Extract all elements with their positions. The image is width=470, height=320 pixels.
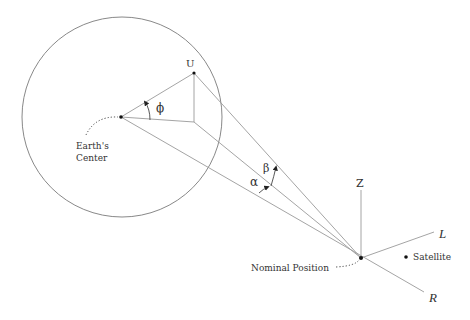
- beta-angle-arc: [271, 167, 276, 186]
- beta-label: β: [263, 162, 269, 175]
- alpha-angle-arc: [259, 187, 268, 193]
- alpha-label: α: [250, 175, 258, 189]
- satellite-label: Satellite: [413, 252, 451, 262]
- u-label: U: [186, 58, 194, 69]
- satellite-point: [404, 255, 408, 259]
- l-axis-label: L: [438, 226, 446, 241]
- foot-to-nominal-line: [194, 122, 361, 258]
- earth-center-label-line1: Earth's: [76, 141, 109, 151]
- center-to-foot-line: [121, 117, 194, 122]
- earth-center-leader: [86, 117, 118, 135]
- nominal-position-label: Nominal Position: [251, 263, 329, 273]
- phi-label: ϕ: [156, 101, 164, 115]
- nominal-position-leader: [336, 260, 359, 267]
- z-axis-label: Z: [356, 177, 364, 190]
- earth-center-point: [119, 115, 123, 119]
- u-point: [192, 71, 195, 74]
- diagram-canvas: U ϕ Earth's Center β α Z L R Nominal Pos…: [0, 0, 470, 320]
- u-to-nominal-line: [194, 73, 361, 258]
- earth-center-label-line2: Center: [76, 153, 108, 163]
- r-axis-label: R: [428, 290, 437, 305]
- phi-angle-arc: [145, 102, 150, 120]
- nominal-position-point: [359, 256, 363, 260]
